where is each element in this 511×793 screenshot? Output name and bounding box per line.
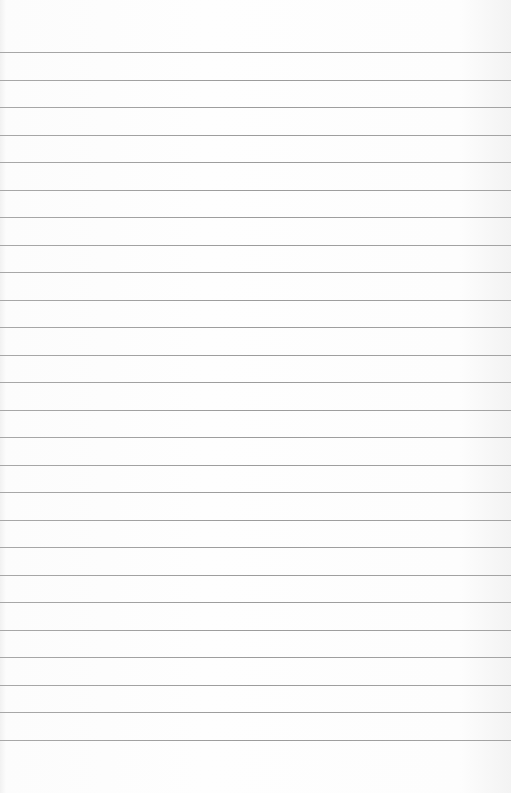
ruled-line: [0, 712, 511, 713]
ruled-line: [0, 685, 511, 686]
ruled-line: [0, 492, 511, 493]
ruled-line: [0, 217, 511, 218]
ruled-line: [0, 135, 511, 136]
ruled-line: [0, 245, 511, 246]
ruled-line: [0, 382, 511, 383]
ruled-line: [0, 190, 511, 191]
ruled-line: [0, 630, 511, 631]
lined-paper-sheet: [0, 0, 511, 793]
ruled-line: [0, 410, 511, 411]
ruled-line: [0, 575, 511, 576]
ruled-line: [0, 520, 511, 521]
ruled-line: [0, 355, 511, 356]
ruled-line: [0, 740, 511, 741]
ruled-line: [0, 80, 511, 81]
ruled-line: [0, 465, 511, 466]
ruled-line: [0, 547, 511, 548]
ruled-line: [0, 327, 511, 328]
ruled-line: [0, 107, 511, 108]
ruled-line: [0, 437, 511, 438]
ruled-line: [0, 162, 511, 163]
ruled-line: [0, 657, 511, 658]
ruled-line: [0, 300, 511, 301]
ruled-line: [0, 272, 511, 273]
ruled-line: [0, 52, 511, 53]
ruled-line: [0, 602, 511, 603]
